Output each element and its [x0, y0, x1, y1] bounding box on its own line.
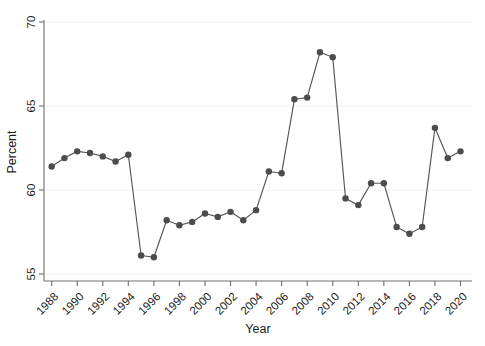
x-axis-ticks: 1988199019921994199619982000200220042006…	[34, 281, 469, 317]
x-tick-label: 2008	[289, 290, 316, 317]
y-axis-title: Percent	[5, 130, 19, 174]
data-series	[48, 49, 463, 260]
x-tick-label: 2002	[213, 290, 240, 317]
data-point	[406, 230, 412, 236]
axis-lines	[44, 20, 472, 281]
data-point	[176, 222, 182, 228]
data-point	[100, 153, 106, 159]
x-tick-label: 2012	[340, 290, 367, 317]
data-point	[355, 202, 361, 208]
data-point	[125, 152, 131, 158]
data-point	[445, 155, 451, 161]
x-tick-label: 1990	[59, 290, 86, 317]
data-point	[240, 217, 246, 223]
data-point	[215, 214, 221, 220]
data-point	[48, 163, 54, 169]
y-tick-label: 65	[25, 100, 37, 113]
data-point	[291, 96, 297, 102]
x-tick-label: 2014	[366, 290, 393, 317]
data-point	[253, 207, 259, 213]
data-point	[227, 209, 233, 215]
x-axis-title-group: Year	[245, 322, 270, 336]
data-point	[163, 217, 169, 223]
data-point	[432, 125, 438, 131]
data-point	[342, 195, 348, 201]
x-tick-label: 2018	[417, 290, 444, 317]
y-axis-ticks: 55606570	[25, 16, 44, 281]
x-tick-label: 2006	[264, 290, 291, 317]
data-point	[74, 148, 80, 154]
data-point	[457, 148, 463, 154]
data-point	[278, 170, 284, 176]
x-axis-title: Year	[245, 322, 270, 336]
x-tick-label: 2004	[238, 290, 265, 317]
data-point	[87, 150, 93, 156]
data-point	[138, 252, 144, 258]
data-point	[189, 219, 195, 225]
data-point	[381, 180, 387, 186]
x-tick-label: 2010	[315, 290, 342, 317]
data-point	[393, 224, 399, 230]
data-point	[112, 158, 118, 164]
x-tick-label: 2020	[443, 290, 470, 317]
data-point	[330, 54, 336, 60]
x-tick-label: 1996	[136, 290, 163, 317]
y-tick-label: 70	[25, 16, 37, 29]
x-tick-label: 2000	[187, 290, 214, 317]
x-tick-label: 1994	[110, 290, 137, 317]
data-point	[304, 94, 310, 100]
data-point	[151, 254, 157, 260]
data-point	[202, 210, 208, 216]
y-axis-title-group: Percent	[5, 130, 19, 174]
data-point	[317, 49, 323, 55]
data-point	[419, 224, 425, 230]
chart-figure: 55606570 1988199019921994199619982000200…	[0, 0, 485, 346]
data-point	[368, 180, 374, 186]
data-point	[61, 155, 67, 161]
x-tick-label: 1998	[162, 290, 189, 317]
x-tick-label: 1988	[34, 290, 61, 317]
y-tick-label: 60	[25, 184, 37, 197]
y-tick-label: 55	[25, 268, 37, 281]
chart-plot-area: 55606570 1988199019921994199619982000200…	[0, 0, 485, 346]
x-tick-label: 1992	[85, 290, 112, 317]
x-tick-label: 2016	[392, 290, 419, 317]
data-point	[266, 168, 272, 174]
